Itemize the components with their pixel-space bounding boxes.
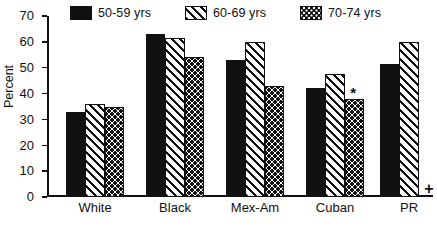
y-axis-label: Percent xyxy=(2,65,16,108)
y-tick-label-50: 50 xyxy=(20,60,34,75)
bar-group-cuban xyxy=(306,16,364,197)
x-axis-category-labels: WhiteBlackMex-AmCubanPR xyxy=(47,200,433,220)
annotation-asterisk-cuban: * xyxy=(350,85,356,100)
bar-black-50-59 xyxy=(146,34,165,197)
y-tick-label-60: 60 xyxy=(20,34,34,49)
x-label-cuban: Cuban xyxy=(316,200,354,215)
y-tick-label-30: 30 xyxy=(20,111,34,126)
bar-white-70-74 xyxy=(105,107,124,198)
bar-cuban-60-69 xyxy=(325,74,344,197)
y-tick-label-10: 10 xyxy=(20,163,34,178)
bar-white-50-59 xyxy=(66,112,85,197)
annotation-plus-pr: + xyxy=(424,181,433,197)
y-tick-label-70: 70 xyxy=(20,8,34,23)
bar-pr-50-59 xyxy=(380,64,399,197)
bar-mex-am-60-69 xyxy=(245,42,264,197)
plot-area: 010203040506070 *+ xyxy=(47,16,433,197)
bar-mex-am-50-59 xyxy=(226,60,245,197)
bar-groups: *+ xyxy=(47,16,433,197)
x-label-black: Black xyxy=(159,200,191,215)
y-tick-label-20: 20 xyxy=(20,137,34,152)
bar-black-60-69 xyxy=(165,38,184,197)
y-tick-label-0: 0 xyxy=(27,189,34,204)
bar-pr-60-69 xyxy=(399,42,418,197)
bar-group-pr xyxy=(380,16,437,197)
bar-group-white xyxy=(66,16,124,197)
bar-group-mex-am xyxy=(226,16,284,197)
x-label-white: White xyxy=(78,200,111,215)
bar-cuban-70-74 xyxy=(345,99,364,197)
bar-group-black xyxy=(146,16,204,197)
bar-chart: 50-59 yrs 60-69 yrs 70-74 yrs Percent 01… xyxy=(0,0,437,236)
x-label-mex-am: Mex-Am xyxy=(231,200,279,215)
bar-mex-am-70-74 xyxy=(265,86,284,197)
x-label-pr: PR xyxy=(400,200,418,215)
bar-black-70-74 xyxy=(185,57,204,197)
y-tick-label-40: 40 xyxy=(20,85,34,100)
bar-white-60-69 xyxy=(85,104,104,197)
bar-cuban-50-59 xyxy=(306,88,325,197)
